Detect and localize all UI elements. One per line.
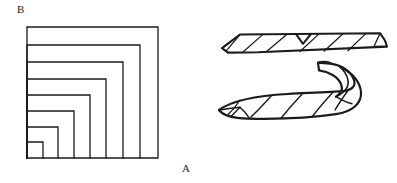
hook-hatch-2	[251, 96, 271, 117]
nested-squares-group	[27, 27, 158, 158]
hook-hatch-4	[312, 92, 333, 117]
nested-square-6	[27, 111, 74, 158]
vertex-label-b: B	[17, 4, 24, 15]
vertex-label-a: A	[182, 163, 190, 174]
figure-canvas: B A	[0, 0, 397, 183]
nested-square-8	[27, 142, 43, 158]
curved-hook-group	[219, 62, 361, 119]
nested-square-3	[27, 62, 123, 158]
flat-strip-group	[222, 33, 387, 52]
flat-strip-left-end-facet	[222, 35, 240, 49]
figure-drawing	[0, 0, 397, 183]
hook-hatch-3	[281, 94, 302, 118]
hook-curl-crease	[336, 97, 352, 104]
hook-upper-outline	[219, 63, 355, 110]
nested-square-4	[27, 79, 106, 158]
nested-square-1	[27, 27, 158, 158]
flat-strip-notch	[296, 34, 311, 44]
hatch-line-2	[243, 34, 263, 52]
hatch-line-3	[266, 34, 287, 52]
